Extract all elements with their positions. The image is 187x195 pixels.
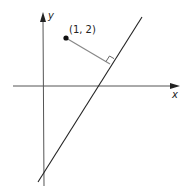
point-1-2 [63,35,68,40]
x-axis [13,83,180,89]
y-axis-arrow-icon [40,12,46,22]
y-axis [40,12,46,186]
coordinate-diagram: x y (1, 2) [0,0,187,195]
slanted-line [38,17,142,182]
y-axis-label: y [47,10,55,21]
right-angle-marker [106,56,114,62]
x-axis-label: x [171,89,178,100]
point-label: (1, 2) [69,24,96,35]
perpendicular-segment [66,38,110,64]
